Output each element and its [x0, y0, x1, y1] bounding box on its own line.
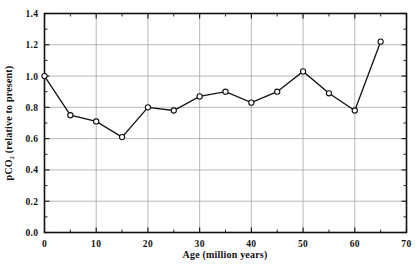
data-point-marker	[300, 69, 305, 74]
x-axis-title: Age (million years)	[183, 249, 268, 261]
y-tick-label: 0.0	[25, 228, 38, 238]
data-point-marker	[249, 100, 254, 105]
y-tick-label: 1.2	[25, 40, 38, 50]
y-tick-label: 0.8	[25, 103, 38, 113]
y-tick-label: 1.0	[25, 72, 38, 82]
x-tick-label: 70	[401, 239, 411, 249]
y-tick-label: 0.2	[25, 197, 38, 207]
y-tick-label: 0.4	[25, 165, 38, 175]
data-point-marker	[197, 94, 202, 99]
y-axis-title: pCO₂ (relative to present)	[3, 66, 15, 181]
x-tick-label: 20	[143, 239, 153, 249]
data-point-marker	[42, 73, 47, 78]
x-tick-label: 10	[91, 239, 101, 249]
y-tick-label: 1.4	[25, 9, 38, 19]
x-tick-label: 60	[350, 239, 360, 249]
data-point-marker	[119, 134, 124, 139]
data-point-marker	[275, 89, 280, 94]
data-point-marker	[326, 91, 331, 96]
x-tick-label: 50	[298, 239, 308, 249]
pco2-vs-age-line-chart: 010203040506070 0.00.20.40.60.81.01.21.4…	[0, 0, 416, 266]
data-point-marker	[94, 119, 99, 124]
data-point-marker	[145, 105, 150, 110]
x-tick-label: 0	[42, 239, 47, 249]
data-point-marker	[171, 108, 176, 113]
data-point-marker	[352, 108, 357, 113]
x-tick-label: 30	[194, 239, 204, 249]
data-point-marker	[68, 113, 73, 118]
data-point-marker	[378, 39, 383, 44]
chart-background	[0, 0, 416, 266]
data-point-marker	[223, 89, 228, 94]
y-tick-label: 0.6	[25, 134, 38, 144]
x-tick-label: 40	[246, 239, 256, 249]
